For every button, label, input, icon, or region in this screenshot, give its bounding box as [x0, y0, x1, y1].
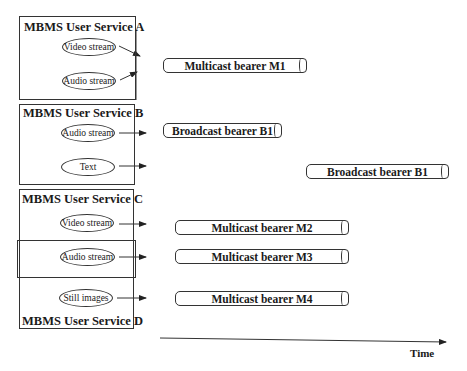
bearer-multicast-m1: Multicast bearer M1 — [163, 58, 307, 73]
service-c-video-stream: Video stream — [60, 214, 114, 232]
service-a-title: MBMS User Service A — [24, 20, 144, 35]
bearer-multicast-m2: Multicast bearer M2 — [175, 220, 349, 235]
bearer-multicast-m3: Multicast bearer M3 — [175, 249, 349, 264]
service-cd-audio-stream: Audio stream — [60, 248, 115, 266]
service-d-title: MBMS User Service D — [22, 314, 143, 329]
bearer-multicast-m4: Multicast bearer M4 — [175, 291, 349, 306]
bearer-broadcast-b1-late: Broadcast bearer B1 — [306, 164, 449, 179]
time-axis — [160, 338, 446, 342]
time-axis-label: Time — [410, 347, 434, 359]
service-a-video-stream: Video stream — [62, 38, 116, 56]
service-a-audio-stream: Audio stream — [62, 72, 116, 90]
service-b-audio-stream: Audio stream — [61, 124, 115, 142]
bearer-broadcast-b1-early: Broadcast bearer B1 — [163, 123, 282, 138]
service-c-title: MBMS User Service C — [22, 192, 143, 207]
service-d-still-images: Still images — [59, 289, 113, 307]
service-b-title: MBMS User Service B — [23, 106, 143, 121]
service-b-text: Text — [61, 158, 115, 176]
